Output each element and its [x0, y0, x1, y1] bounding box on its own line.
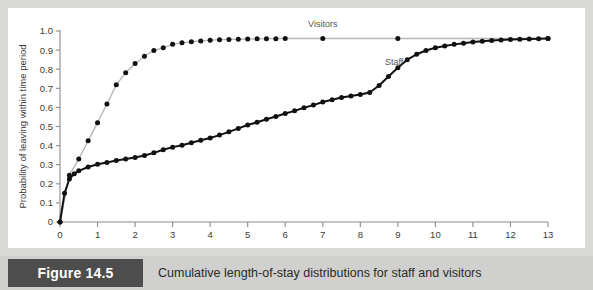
- y-axis-tick-label: 0.1: [40, 197, 53, 208]
- data-point-staff: [95, 162, 100, 167]
- data-point-staff: [72, 171, 77, 176]
- x-axis-tick-label: 3: [170, 229, 175, 240]
- data-point-visitors: [283, 36, 288, 41]
- data-point-staff: [114, 158, 119, 163]
- data-point-staff: [517, 37, 522, 42]
- chart-annotations: VisitorsStaff: [308, 19, 404, 67]
- data-point-visitors: [170, 42, 175, 47]
- data-point-staff: [208, 135, 213, 140]
- data-point-staff: [424, 48, 429, 53]
- data-point-staff: [358, 92, 363, 97]
- x-axis-tick-label: 1: [95, 229, 100, 240]
- data-point-staff: [442, 43, 447, 48]
- data-point-staff: [226, 129, 231, 134]
- y-axis-tick-label: 0.4: [40, 140, 53, 151]
- data-point-staff: [433, 45, 438, 50]
- y-axis-title-label: Probability of leaving within time perio…: [17, 44, 28, 208]
- data-point-staff: [273, 114, 278, 119]
- data-point-staff: [536, 36, 541, 41]
- data-point-visitors: [104, 101, 109, 106]
- data-point-staff: [264, 117, 269, 122]
- data-point-staff: [180, 143, 185, 148]
- y-axis-tick-label: 0: [48, 216, 53, 227]
- data-point-visitors: [236, 37, 241, 42]
- x-axis-tick-label: 12: [505, 229, 516, 240]
- data-point-visitors: [151, 48, 156, 53]
- data-point-staff: [217, 133, 222, 138]
- data-point-staff: [161, 147, 166, 152]
- y-axis-tick-label: 0.3: [40, 159, 53, 170]
- data-point-staff: [76, 168, 81, 173]
- data-point-visitors: [208, 38, 213, 43]
- data-point-visitors: [217, 37, 222, 42]
- chart-series: [58, 36, 551, 225]
- data-point-staff: [198, 138, 203, 143]
- y-axis-tick-label: 0.8: [40, 64, 53, 75]
- x-axis: 012345678910111213: [57, 222, 553, 240]
- data-point-visitors: [226, 37, 231, 42]
- x-axis-tick-label: 0: [57, 229, 62, 240]
- x-axis-tick-label: 2: [132, 229, 137, 240]
- y-axis-tick-label: 0.6: [40, 102, 53, 113]
- y-axis-tick-label: 1.0: [40, 25, 53, 36]
- data-point-staff: [480, 39, 485, 44]
- y-axis-tick-label: 0.5: [40, 121, 53, 132]
- x-axis-tick-label: 8: [358, 229, 363, 240]
- data-point-staff: [527, 37, 532, 42]
- y-axis-tick-label: 0.7: [40, 83, 53, 94]
- data-point-staff: [302, 105, 307, 110]
- data-point-visitors: [123, 70, 128, 75]
- data-point-visitors: [114, 82, 119, 87]
- data-point-staff: [377, 83, 382, 88]
- x-axis-tick-label: 5: [245, 229, 250, 240]
- data-point-staff: [461, 41, 466, 46]
- data-point-staff: [311, 103, 316, 108]
- data-point-visitors: [320, 36, 325, 41]
- data-point-visitors: [395, 36, 400, 41]
- data-point-visitors: [245, 37, 250, 42]
- y-axis-tick-label: 0.2: [40, 178, 53, 189]
- x-axis-tick-label: 11: [468, 229, 478, 240]
- data-point-staff: [67, 177, 72, 182]
- data-point-staff: [255, 120, 260, 125]
- data-point-staff: [62, 191, 67, 196]
- x-axis-tick-label: 13: [543, 229, 554, 240]
- figure-number-label: Figure 14.5: [37, 265, 113, 281]
- x-axis-tick-label: 6: [283, 229, 288, 240]
- data-point-visitors: [189, 39, 194, 44]
- data-point-visitors: [198, 38, 203, 43]
- y-axis-tick-label: 0.9: [40, 45, 53, 56]
- y-axis-title: Probability of leaving within time perio…: [17, 44, 28, 208]
- data-point-visitors: [86, 138, 91, 143]
- data-point-staff: [414, 52, 419, 57]
- data-point-staff: [499, 37, 504, 42]
- chart-svg: 00.10.20.30.40.50.60.70.80.91.0 01234567…: [0, 0, 593, 250]
- data-point-staff: [142, 153, 147, 158]
- data-point-staff: [58, 220, 63, 225]
- y-axis: 00.10.20.30.40.50.60.70.80.91.0: [40, 25, 60, 227]
- data-point-staff: [339, 95, 344, 100]
- data-point-visitors: [180, 40, 185, 45]
- data-point-staff: [170, 145, 175, 150]
- data-point-staff: [405, 57, 410, 62]
- data-point-visitors: [76, 156, 81, 161]
- data-point-staff: [320, 100, 325, 105]
- figure-number-badge: Figure 14.5: [8, 259, 143, 287]
- x-axis-tick-label: 9: [395, 229, 400, 240]
- data-point-staff: [489, 38, 494, 43]
- data-point-visitors: [142, 54, 147, 59]
- series-line-visitors: [60, 38, 548, 222]
- series-label-staff: Staff: [385, 57, 404, 67]
- data-point-staff: [86, 164, 91, 169]
- data-point-staff: [151, 150, 156, 155]
- data-point-staff: [386, 74, 391, 79]
- x-axis-tick-label: 4: [208, 229, 213, 240]
- x-axis-tick-label: 7: [320, 229, 325, 240]
- data-point-staff: [245, 122, 250, 127]
- data-point-visitors: [255, 36, 260, 41]
- data-point-staff: [133, 155, 138, 160]
- data-point-visitors: [95, 120, 100, 125]
- data-point-staff: [236, 126, 241, 131]
- data-point-visitors: [273, 36, 278, 41]
- data-point-staff: [348, 93, 353, 98]
